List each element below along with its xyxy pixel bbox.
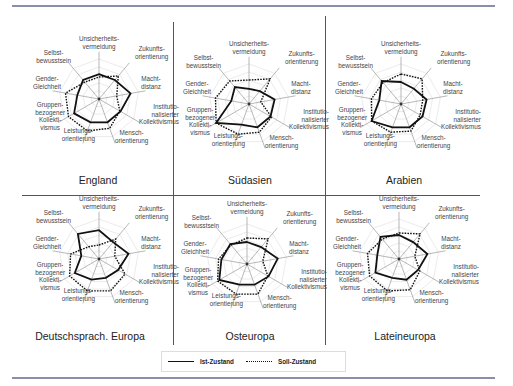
axis-label-4: Mensch-orientierung xyxy=(415,289,448,304)
axis-label-3: Institutio-nalisierterKollektivismus xyxy=(439,263,479,286)
axis-label-7: Gender-Gleichheit xyxy=(333,235,361,250)
axis-label-2: Macht-distanz xyxy=(289,240,309,255)
legend-soll-label: Soll-Zustand xyxy=(278,358,316,365)
panel-title-england: England xyxy=(79,174,118,186)
solid-line-icon xyxy=(168,361,194,362)
dotted-line-icon xyxy=(246,361,272,362)
axis-label-5: Leistungs-orientierung xyxy=(362,287,395,302)
axis-label-5: Leistungs-orientierung xyxy=(210,292,243,307)
axis-label-0: Unsicherheits-vermeidung xyxy=(381,40,421,55)
axis-label-6: Gruppen-bezogenerKollekti-vismus xyxy=(335,261,365,291)
axis-label-2: Macht-distanz xyxy=(441,235,461,250)
axis-label-3: Institutio-nalisierterKollektivismus xyxy=(287,268,327,291)
ist-series xyxy=(216,87,275,127)
top-rule xyxy=(12,5,495,7)
axis-label-8: Selbst-bewusstsein xyxy=(336,209,371,224)
axis-label-0: Unsicherheits-vermeidung xyxy=(229,40,269,55)
panel-title-deutsch: Deutschsprach. Europa xyxy=(35,330,145,342)
legend-ist: Ist-Zustand xyxy=(168,358,234,365)
axis-label-1: Zukunfts-orientierung xyxy=(435,205,468,220)
axis-label-8: Selbst-bewusstsein xyxy=(338,54,373,69)
panel-title-osteuropa: Osteuropa xyxy=(225,330,274,342)
axis-label-2: Macht-distanz xyxy=(443,80,463,95)
axis-label-4: Mensch-orientierung xyxy=(265,134,298,149)
axis-label-5: Leistungs-orientierung xyxy=(62,127,95,142)
axis-label-8: Selbst-bewusstsein xyxy=(186,54,221,69)
legend-soll: Soll-Zustand xyxy=(246,358,316,365)
axis-label-7: Gender-Gleichheit xyxy=(33,75,61,90)
panel-title-arabien: Arabien xyxy=(386,174,422,186)
chart-legend: Ist-Zustand Soll-Zustand xyxy=(161,351,346,372)
axis-label-2: Macht-distanz xyxy=(141,235,161,250)
panel-title-suedasien: Südasien xyxy=(228,174,272,186)
axis-label-1: Zukunfts-orientierung xyxy=(285,50,318,65)
axis-label-7: Gender-Gleichheit xyxy=(181,240,209,255)
axis-label-5: Leistungs-orientierung xyxy=(212,132,245,147)
axis-label-6: Gruppen-bezogenerKollekti-vismus xyxy=(35,261,65,291)
axis-label-4: Mensch-orientierung xyxy=(115,289,148,304)
axis-label-1: Zukunfts-orientierung xyxy=(437,50,470,65)
axis-label-4: Mensch-orientierung xyxy=(115,129,148,144)
axis-label-2: Macht-distanz xyxy=(141,75,161,90)
axis-label-0: Unsicherheits-vermeidung xyxy=(79,35,119,50)
axis-label-1: Zukunfts-orientierung xyxy=(283,210,316,225)
axis-label-6: Gruppen-bezogenerKollekti-vismus xyxy=(337,106,367,136)
axis-label-4: Mensch-orientierung xyxy=(263,294,296,309)
axis-label-8: Selbst-bewusstsein xyxy=(36,209,71,224)
axis-label-3: Institutio-nalisierterKollektivismus xyxy=(139,103,179,126)
divider-v2-top xyxy=(325,16,326,195)
axis-label-3: Institutio-nalisierterKollektivismus xyxy=(289,108,329,131)
axis-label-8: Selbst-bewusstsein xyxy=(184,214,219,229)
axis-label-6: Gruppen-bezogenerKollekti-vismus xyxy=(35,101,65,131)
axis-label-0: Unsicherheits-vermeidung xyxy=(227,200,267,215)
axis-label-0: Unsicherheits-vermeidung xyxy=(379,195,419,210)
panel-title-latein: Lateineuropa xyxy=(374,330,435,342)
axis-label-5: Leistungs-orientierung xyxy=(364,132,397,147)
axis-label-1: Zukunfts-orientierung xyxy=(135,205,168,220)
axis-label-7: Gender-Gleichheit xyxy=(335,80,363,95)
axis-label-1: Zukunfts-orientierung xyxy=(135,45,168,60)
bottom-rule xyxy=(12,377,495,379)
axis-label-2: Macht-distanz xyxy=(291,80,311,95)
axis-label-7: Gender-Gleichheit xyxy=(33,235,61,250)
axis-label-0: Unsicherheits-vermeidung xyxy=(79,195,119,210)
axis-label-7: Gender-Gleichheit xyxy=(183,80,211,95)
legend-ist-label: Ist-Zustand xyxy=(200,358,234,365)
axis-label-5: Leistungs-orientierung xyxy=(62,287,95,302)
axis-label-6: Gruppen-bezogenerKollekti-vismus xyxy=(185,106,215,136)
axis-label-3: Institutio-nalisierterKollektivismus xyxy=(441,108,481,131)
axis-label-3: Institutio-nalisierterKollektivismus xyxy=(139,263,179,286)
axis-label-8: Selbst-bewusstsein xyxy=(36,49,71,64)
axis-label-4: Mensch-orientierung xyxy=(417,134,450,149)
axis-label-6: Gruppen-bezogenerKollekti-vismus xyxy=(183,266,213,296)
